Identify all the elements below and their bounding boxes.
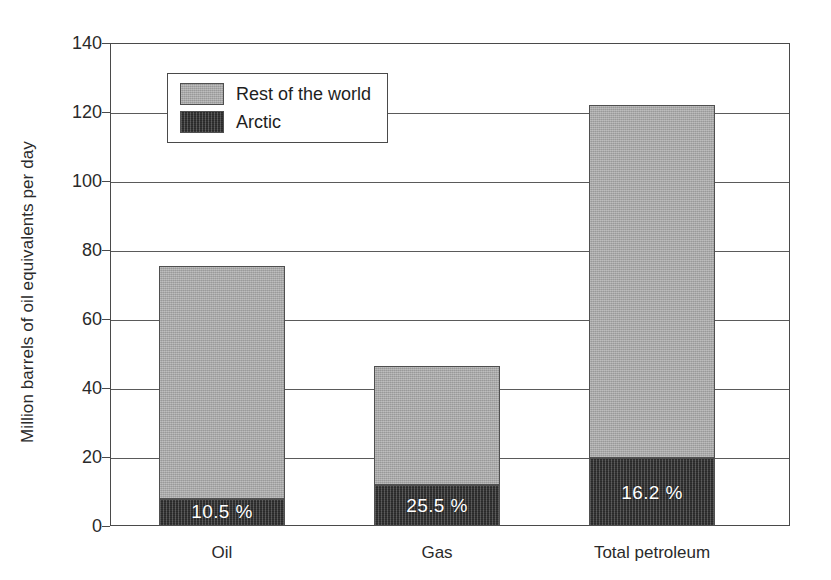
x-tick-label-gas: Gas: [421, 543, 452, 563]
bar-chart: Million barrels of oil equivalents per d…: [0, 0, 831, 580]
legend-item-rest-of-the-world[interactable]: Rest of the world: [180, 83, 371, 105]
bar-segment-rest-of-world-gas[interactable]: [374, 366, 500, 485]
legend-swatch-rest-of-the-world: [180, 83, 224, 105]
legend: Rest of the world Arctic: [167, 73, 388, 143]
x-tick-label-oil: Oil: [212, 543, 233, 563]
y-tick-label-140: 140: [42, 33, 102, 54]
legend-label-rest-of-the-world: Rest of the world: [236, 84, 371, 105]
bar-percent-label-gas: 25.5 %: [374, 495, 500, 517]
y-tick-mark-120: [102, 112, 110, 113]
legend-label-arctic: Arctic: [236, 112, 281, 133]
legend-swatch-arctic: [180, 111, 224, 133]
y-tick-mark-20: [102, 457, 110, 458]
legend-item-arctic[interactable]: Arctic: [180, 111, 371, 133]
bar-segment-rest-of-world-oil[interactable]: [159, 266, 285, 499]
y-tick-label-20: 20: [42, 447, 102, 468]
y-tick-label-120: 120: [42, 102, 102, 123]
bar-percent-label-oil: 10.5 %: [159, 501, 285, 523]
y-tick-label-40: 40: [42, 378, 102, 399]
y-tick-mark-60: [102, 319, 110, 320]
y-tick-mark-0: [102, 526, 110, 527]
bar-group-oil[interactable]: 10.5 %: [159, 266, 285, 526]
bar-segment-rest-of-world-total-petroleum[interactable]: [589, 105, 715, 458]
y-tick-label-80: 80: [42, 240, 102, 261]
y-axis-ticks: 140 120 100 80 60 40 20 0: [34, 43, 102, 526]
y-tick-label-100: 100: [42, 171, 102, 192]
x-tick-label-total-petroleum: Total petroleum: [594, 543, 710, 563]
bar-percent-label-total-petroleum: 16.2 %: [589, 482, 715, 504]
y-tick-mark-40: [102, 388, 110, 389]
y-tick-label-0: 0: [42, 516, 102, 537]
y-tick-mark-100: [102, 181, 110, 182]
y-tick-mark-140: [102, 43, 110, 44]
bar-group-gas[interactable]: 25.5 %: [374, 366, 500, 526]
y-tick-mark-80: [102, 250, 110, 251]
y-tick-label-60: 60: [42, 309, 102, 330]
bar-group-total-petroleum[interactable]: 16.2 %: [589, 105, 715, 526]
